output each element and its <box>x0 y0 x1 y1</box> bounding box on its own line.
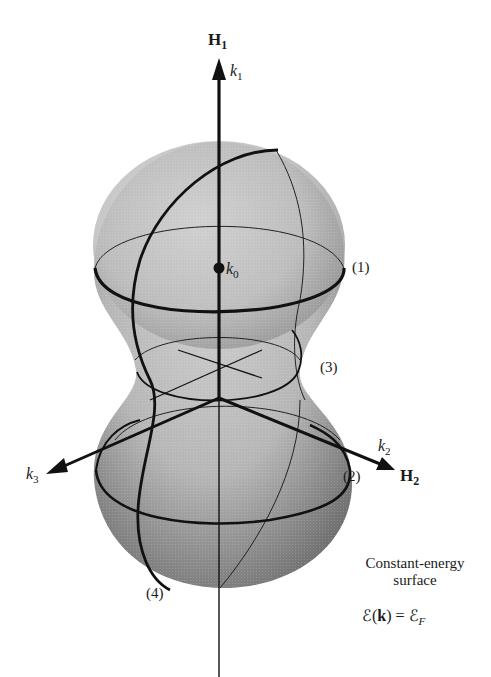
label-orbit-4: (4) <box>146 585 164 602</box>
arrowhead-k3-icon <box>46 458 68 474</box>
caption-line-2: surface <box>350 572 480 589</box>
label-orbit-1: (1) <box>352 259 370 276</box>
fermi-surface-diagram: H1 k1 k0 (1) (3) k2 (2) H2 k3 (4) Consta… <box>0 0 491 677</box>
label-k3: k3 <box>26 465 39 483</box>
fermi-energy-equation: ℰ(k) = ℰF <box>362 606 425 625</box>
caption: Constant-energy surface <box>350 555 480 589</box>
label-k0: k0 <box>226 260 239 278</box>
center-point-k0 <box>214 263 225 274</box>
label-k2: k2 <box>378 437 391 455</box>
label-H2: H2 <box>400 466 419 486</box>
label-orbit-3: (3) <box>320 359 338 376</box>
label-k1: k1 <box>230 62 243 80</box>
label-orbit-2: (2) <box>343 468 361 485</box>
label-H1: H1 <box>208 30 227 50</box>
caption-line-1: Constant-energy <box>350 555 480 572</box>
arrowhead-k1-icon <box>212 58 226 80</box>
